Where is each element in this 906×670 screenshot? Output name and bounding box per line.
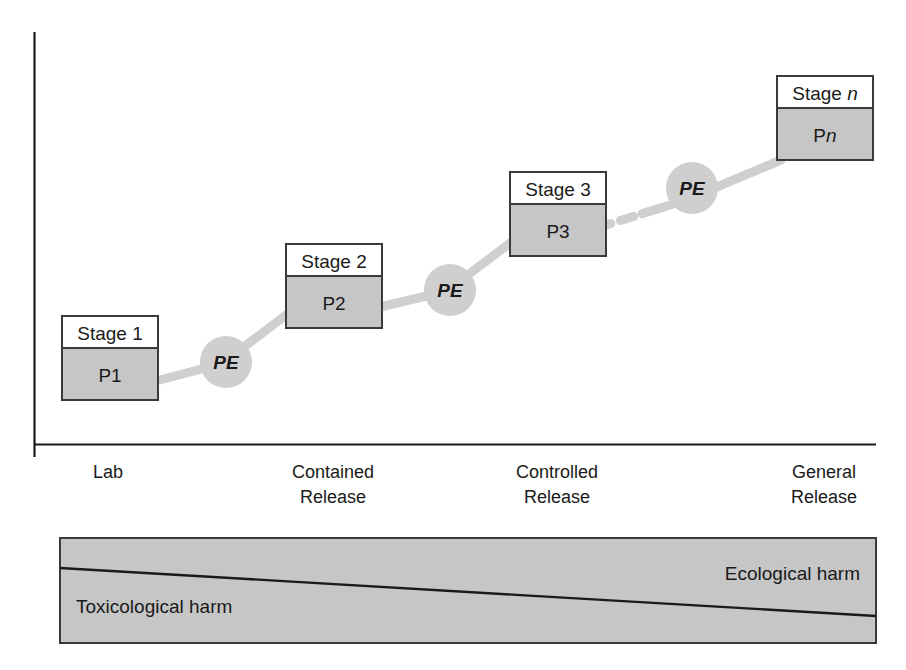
stage-3-body: P3	[546, 221, 569, 242]
stage-box-stage-2[interactable]: Stage 2 P2	[286, 244, 382, 328]
stage-1-title: Stage 1	[77, 323, 143, 344]
evaluation-node-pe-1[interactable]: PE	[200, 336, 252, 388]
axis-label-contained-release-line1: Contained	[292, 462, 374, 482]
stage-n-title-italic: n	[847, 83, 858, 104]
axis-label-contained-release-line2: Release	[300, 487, 366, 507]
stage-n-body-word: P	[813, 125, 826, 146]
axis-label-controlled-release-line2: Release	[524, 487, 590, 507]
stage-1-body: P1	[98, 365, 121, 386]
stage-n-title-word: Stage	[792, 83, 847, 104]
stage-3-title: Stage 3	[525, 179, 591, 200]
stage-box-stage-3[interactable]: Stage 3 P3	[510, 172, 606, 256]
axis-label-lab-line1: Lab	[93, 462, 123, 482]
evaluation-node-pe-3[interactable]: PE	[666, 162, 718, 214]
stage-box-stage-n[interactable]: Stage n Pn	[777, 76, 873, 160]
axis-labels-group: Lab Contained Release Controlled Release…	[93, 462, 857, 507]
axis-label-general-release-line2: Release	[791, 487, 857, 507]
pe-2-label: PE	[437, 280, 464, 301]
stage-2-body: P2	[322, 293, 345, 314]
harm-bar-right-label: Ecological harm	[725, 563, 860, 584]
stage-2-title: Stage 2	[301, 251, 367, 272]
harm-bar-group: Ecological harm Toxicological harm	[60, 538, 876, 643]
stage-n-body: Pn	[813, 125, 836, 146]
axis-label-controlled-release-line1: Controlled	[516, 462, 598, 482]
axis-label-general-release-line1: General	[792, 462, 856, 482]
axes-group	[34, 32, 876, 457]
pe-1-label: PE	[213, 352, 240, 373]
pe-3-label: PE	[679, 178, 706, 199]
stage-n-body-italic: n	[826, 125, 837, 146]
harm-bar-rect	[60, 538, 876, 643]
staged-release-diagram: Stage 1 P1 PE Stage 2 P2 PE Stage 3 P3	[0, 0, 906, 670]
diagram-canvas: Stage 1 P1 PE Stage 2 P2 PE Stage 3 P3	[0, 0, 906, 670]
stage-n-title: Stage n	[792, 83, 858, 104]
harm-bar-left-label: Toxicological harm	[76, 596, 232, 617]
stage-box-stage-1[interactable]: Stage 1 P1	[62, 316, 158, 400]
evaluation-node-pe-2[interactable]: PE	[424, 264, 476, 316]
